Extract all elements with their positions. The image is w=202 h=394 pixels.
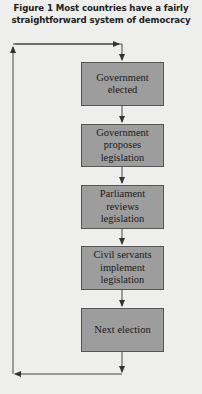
- step-label: Government: [96, 72, 149, 85]
- step-label: Next election: [94, 324, 150, 337]
- step-label: Parliament: [100, 188, 146, 201]
- step-label: implement: [93, 262, 151, 275]
- step-government-elected: Government elected: [81, 62, 164, 106]
- step-label: legislation: [100, 213, 146, 226]
- step-label: elected: [96, 84, 149, 97]
- step-civil-servants-implement-legislation: Civil servants implement legislation: [81, 246, 164, 290]
- step-label: Government: [96, 127, 149, 140]
- step-government-proposes-legislation: Government proposes legislation: [81, 124, 164, 167]
- step-label: legislation: [93, 274, 151, 287]
- step-label: Civil servants: [93, 249, 151, 262]
- step-label: proposes: [96, 139, 149, 152]
- step-parliament-reviews-legislation: Parliament reviews legislation: [81, 185, 164, 229]
- step-label: legislation: [96, 152, 149, 165]
- step-label: reviews: [100, 201, 146, 214]
- step-next-election: Next election: [81, 308, 164, 352]
